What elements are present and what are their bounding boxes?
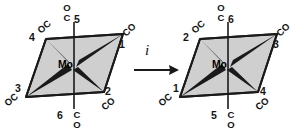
vertex-number-4: 4 — [29, 32, 35, 43]
ligand-axial-top: O C — [60, 3, 74, 22]
vertex-number-1: 1 — [119, 39, 125, 50]
axial-bottom-oxygen: O — [224, 120, 238, 130]
vertex-number-2: 2 — [183, 32, 189, 43]
vertex-number-6: 6 — [57, 110, 63, 121]
vertex-number-5: 5 — [74, 14, 80, 25]
vertex-number-3: 3 — [15, 83, 21, 94]
ligand-axial-top: O C — [214, 3, 228, 22]
vertex-number-6: 6 — [228, 14, 234, 25]
vertex-number-5: 5 — [211, 110, 217, 121]
metal-label: Mo — [212, 59, 227, 70]
ligand-axial-bottom: C O — [70, 110, 84, 129]
axial-top-carbon: C — [214, 13, 228, 23]
ligand-axial-bottom: C O — [224, 110, 238, 129]
metal-label: Mo — [58, 59, 73, 70]
right-octahedron-structure: Mo O C 6 OC 2 CO 3 OC 1 CO 4 C O 5 — [154, 0, 308, 134]
vertex-number-3: 3 — [273, 39, 279, 50]
reaction-diagram: Mo O C 5 OC 4 CO 1 OC 3 CO 2 C O 6 i — [0, 0, 308, 134]
vertex-number-2: 2 — [105, 86, 111, 97]
vertex-number-1: 1 — [173, 83, 179, 94]
left-octahedron-structure: Mo O C 5 OC 4 CO 1 OC 3 CO 2 C O 6 — [0, 0, 154, 134]
axial-top-carbon: C — [60, 13, 74, 23]
vertex-number-4: 4 — [260, 86, 266, 97]
axial-bottom-oxygen: O — [70, 120, 84, 130]
